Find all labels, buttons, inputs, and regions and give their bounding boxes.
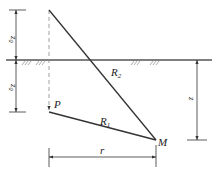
z0-bottom-label: z0 <box>8 83 19 91</box>
diagram-canvas: z0 z0 P M R1 R2 z r <box>0 0 216 181</box>
ground-hatching <box>22 61 159 65</box>
point-m-label: M <box>157 136 168 148</box>
r-label: r <box>100 144 105 156</box>
z0-dimension <box>9 10 26 112</box>
r2-label: R2 <box>110 66 122 80</box>
point-p-label: P <box>53 98 61 110</box>
ground-surface <box>6 60 212 65</box>
r1-label: R1 <box>99 115 110 129</box>
z-label: z <box>187 96 197 101</box>
z0-top-label: z0 <box>8 35 19 43</box>
